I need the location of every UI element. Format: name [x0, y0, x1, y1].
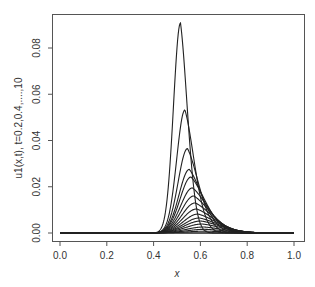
y-axis-label: u1(x,t), t=0.2,0.4,....,10 — [13, 77, 24, 178]
y-tick-label: 0.02 — [31, 177, 42, 197]
x-tick-label: 0.2 — [100, 250, 114, 261]
y-tick-label: 0.00 — [31, 223, 42, 243]
x-tick-label: 0.0 — [53, 250, 67, 261]
y-tick-label: 0.04 — [31, 130, 42, 150]
curve-t-0-8 — [60, 169, 294, 233]
plot-frame — [53, 15, 305, 242]
y-axis: 0.000.020.040.060.08 — [31, 38, 53, 243]
x-tick-label: 0.4 — [147, 250, 161, 261]
x-tick-label: 1.0 — [287, 250, 301, 261]
curve-family — [60, 23, 294, 233]
x-axis-label: x — [174, 268, 181, 279]
x-tick-label: 0.6 — [193, 250, 207, 261]
x-tick-label: 0.8 — [240, 250, 254, 261]
x-axis: 0.00.20.40.60.81.0 — [53, 242, 301, 262]
y-tick-label: 0.06 — [31, 84, 42, 104]
chart: 0.00.20.40.60.81.0 0.000.020.040.060.08 … — [0, 0, 315, 287]
y-tick-label: 0.08 — [31, 38, 42, 58]
